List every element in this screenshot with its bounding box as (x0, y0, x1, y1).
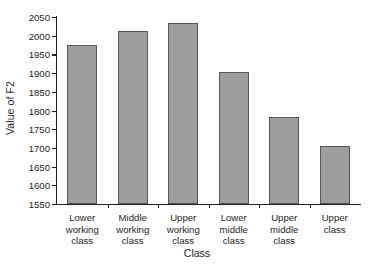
y-axis-tick-label: 1650 (29, 161, 50, 172)
y-axis-tick (52, 36, 56, 37)
x-axis-category-label: Upperworkingclass (158, 212, 209, 247)
x-axis-category-label-line: class (310, 224, 361, 236)
x-axis-tick (310, 204, 311, 208)
y-axis-tick (52, 148, 56, 149)
y-axis-tick (52, 17, 56, 18)
y-axis-tick (52, 54, 56, 55)
x-axis-category-label-line: class (158, 235, 209, 247)
x-axis-category-label-line: working (158, 224, 209, 236)
y-axis-tick-label: 1800 (29, 105, 50, 116)
x-axis-tick (209, 204, 210, 208)
plot-area: 1550160016501700175018001850190019502000… (57, 17, 360, 204)
x-axis-category-label-line: working (108, 224, 159, 236)
y-axis-tick-label: 1700 (29, 142, 50, 153)
x-axis-category-label-line: Lower (209, 212, 260, 224)
y-axis-tick (52, 111, 56, 112)
x-axis-category-label: Middleworkingclass (108, 212, 159, 247)
x-axis-tick (108, 204, 109, 208)
bar-chart-figure: Value of F2 1550160016501700175018001850… (0, 0, 374, 269)
y-axis-tick-label: 1900 (29, 68, 50, 79)
y-axis-tick (52, 204, 56, 205)
x-axis-category-label-line: Lower (57, 212, 108, 224)
x-axis-tick (259, 204, 260, 208)
x-axis-category-label-line: Upper (259, 212, 310, 224)
x-axis-category-label-line: middle (209, 224, 260, 236)
x-axis-category-label-line: class (57, 235, 108, 247)
bar (168, 23, 198, 204)
y-axis-title-text: Value of F2 (4, 80, 16, 134)
y-axis-tick (52, 73, 56, 74)
y-axis-tick-label: 1600 (29, 180, 50, 191)
x-axis-title-text: Class (184, 247, 210, 259)
y-axis-tick (52, 129, 56, 130)
y-axis-tick-label: 2000 (29, 30, 50, 41)
y-axis-tick-label: 1750 (29, 124, 50, 135)
bar (269, 117, 299, 204)
bar (320, 146, 350, 204)
bar (118, 31, 148, 204)
x-axis-category-label-line: Upper (310, 212, 361, 224)
y-axis-tick-label: 1950 (29, 49, 50, 60)
x-axis-category-label-line: class (209, 235, 260, 247)
bar (219, 72, 249, 204)
y-axis-tick-label: 1850 (29, 86, 50, 97)
x-axis-category-label-line: class (108, 235, 159, 247)
x-axis-category-label-line: middle (259, 224, 310, 236)
y-axis-tick (52, 185, 56, 186)
bar (67, 45, 97, 204)
x-axis-category-label: Upperclass (310, 212, 361, 235)
x-axis-title: Class (0, 247, 374, 259)
y-axis-tick (52, 92, 56, 93)
x-axis-category-label-line: Upper (158, 212, 209, 224)
x-axis-category-label: Lowermiddleclass (209, 212, 260, 247)
x-axis-category-label: Lowerworkingclass (57, 212, 108, 247)
x-axis-tick (158, 204, 159, 208)
x-axis-category-label-line: Middle (108, 212, 159, 224)
y-axis-tick (52, 167, 56, 168)
y-axis-tick-label: 2050 (29, 12, 50, 23)
x-axis-category-label: Uppermiddleclass (259, 212, 310, 247)
y-axis-title: Value of F2 (0, 0, 20, 215)
x-axis-category-label-line: working (57, 224, 108, 236)
x-axis-category-label-line: class (259, 235, 310, 247)
y-axis-tick-label: 1550 (29, 199, 50, 210)
